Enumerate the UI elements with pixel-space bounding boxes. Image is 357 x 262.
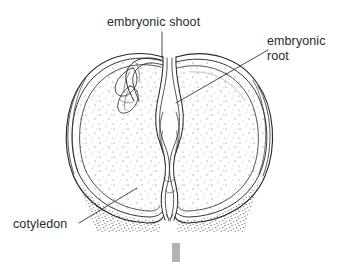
cotyledon-left: [66, 54, 170, 235]
label-cotyledon: cotyledon: [13, 217, 67, 232]
label-embryonic-root-line1: embryonic: [267, 34, 326, 48]
figure-accent-bar: [172, 243, 180, 262]
label-embryonic-root-line2: root: [267, 49, 289, 63]
label-embryonic-root: embryonicroot: [267, 34, 326, 63]
label-embryonic-shoot: embryonic shoot: [107, 15, 200, 30]
cotyledon-right: [170, 54, 273, 235]
